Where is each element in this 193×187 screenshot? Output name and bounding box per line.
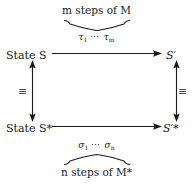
left-equivalence-symbol: ≡: [18, 86, 27, 97]
right-equivalence-glyph: ≡: [178, 85, 187, 98]
node-bottom-right: S′*: [163, 123, 179, 134]
bottom-horizontal-arrow: [52, 122, 162, 131]
bottom-transition-labels: σ1⋯σn: [0, 141, 193, 151]
right-equivalence-symbol: ≡: [178, 86, 187, 97]
node-top-left-label: State S: [6, 49, 46, 62]
top-caption-text: m steps of M: [62, 4, 131, 16]
tau-last-subscript: m: [109, 36, 115, 43]
bottom-caption-text: n steps of M*: [61, 166, 132, 178]
top-ellipsis: ⋯: [87, 32, 103, 42]
left-vertical-arrow: [28, 60, 37, 122]
node-bottom-right-label: S′*: [163, 122, 179, 135]
bottom-ellipsis: ⋯: [88, 140, 104, 150]
bottom-caption: n steps of M*: [0, 167, 193, 178]
left-equivalence-glyph: ≡: [18, 85, 27, 98]
node-bottom-left-label: State S*: [6, 122, 52, 135]
top-horizontal-arrow: [52, 49, 162, 58]
sigma-last-subscript: n: [111, 144, 115, 151]
node-top-left: State S: [6, 50, 46, 61]
top-transition-labels: τ1⋯τm: [0, 33, 193, 43]
top-caption: m steps of M: [0, 5, 193, 16]
commutative-diagram: m steps of M τ1⋯τm State S S′ ≡ ≡: [0, 0, 193, 187]
node-bottom-left: State S*: [6, 123, 52, 134]
